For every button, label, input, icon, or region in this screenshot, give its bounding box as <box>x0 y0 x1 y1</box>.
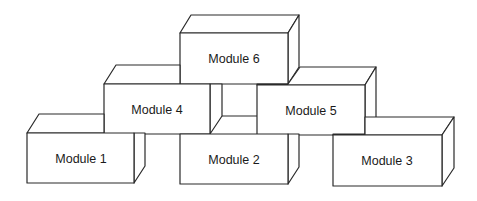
module-2-label: Module 2 <box>208 153 259 167</box>
module-4-top-face <box>104 65 180 84</box>
module-6-label: Module 6 <box>208 52 259 66</box>
module-6-block: Module 6 <box>180 15 299 84</box>
module-6-top-face <box>180 15 299 33</box>
module-4-label: Module 4 <box>131 103 182 117</box>
module-4-side-face <box>210 84 222 134</box>
module-2-side-face <box>288 134 299 184</box>
module-stack-diagram: Module 6 Module 5 Module 4 Module 1 Modu… <box>0 0 477 201</box>
module-1-side-face <box>134 133 145 183</box>
module-3-label: Module 3 <box>361 154 412 168</box>
module-1-top-face <box>27 114 104 133</box>
module-1-label: Module 1 <box>55 152 106 166</box>
module-2-block: Module 2 <box>180 134 299 184</box>
module-5-label: Module 5 <box>285 104 336 118</box>
